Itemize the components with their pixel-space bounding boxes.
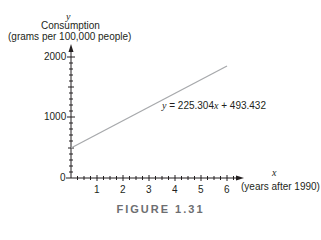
x-tick-2: 2 — [120, 184, 126, 195]
y-axis-arrow-icon — [69, 44, 74, 52]
equation-end: + 493.432 — [218, 100, 266, 111]
x-tick-6: 6 — [224, 184, 230, 195]
x-tick-3: 3 — [146, 184, 152, 195]
equation-mid: = 225.304 — [166, 100, 214, 111]
y-tick-2000: 2000 — [44, 51, 66, 62]
y-tick-0: 0 — [60, 172, 66, 183]
y-tick-1000: 1000 — [44, 111, 66, 122]
x-axis-variable: x — [272, 167, 276, 178]
y-axis-label-line2: (grams per 100,000 people) — [8, 31, 131, 42]
x-axis-label: (years after 1990) — [241, 181, 320, 192]
x-tick-4: 4 — [172, 184, 178, 195]
x-tick-5: 5 — [198, 184, 204, 195]
x-axis-arrow-icon — [236, 176, 244, 181]
x-tick-1: 1 — [94, 184, 100, 195]
regression-equation: y = 225.304x + 493.432 — [162, 100, 266, 111]
y-axis-label-line1: Consumption — [41, 20, 100, 31]
figure-caption: FIGURE 1.31 — [0, 203, 321, 215]
